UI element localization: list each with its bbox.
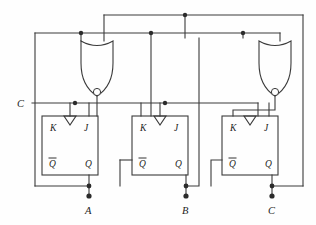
- ff-b-clock-triangle-icon: [154, 116, 166, 125]
- gate-2-inversion-bubble: [271, 88, 278, 95]
- ff-a-pin-j: J: [84, 123, 89, 133]
- ff-b-pin-q: Q: [175, 159, 182, 169]
- wire-ffb-to-ffc-link: [211, 160, 222, 186]
- junction-dot: [183, 13, 187, 17]
- circuit-schematic: K J Q Q K J Q Q K J Q Q C A B C: [0, 0, 316, 225]
- junction-dot: [87, 184, 92, 189]
- circuit-diagram-canvas: K J Q Q K J Q Q K J Q Q C A B C: [0, 0, 316, 225]
- junction-dot: [184, 184, 189, 189]
- ff-b-pin-k: K: [139, 123, 147, 133]
- gate-2-body: [259, 41, 291, 96]
- ff-b-pin-qbar: Q: [139, 159, 146, 169]
- ff-b-pin-j: J: [174, 123, 179, 133]
- junction-dot: [163, 101, 167, 105]
- junction-dot: [79, 31, 83, 35]
- ff-c-pin-k: K: [229, 123, 237, 133]
- junction-dot: [149, 31, 153, 35]
- output-label-a: A: [84, 205, 92, 216]
- junction-dot: [241, 31, 245, 35]
- ff-a-pin-qbar: Q: [49, 159, 56, 169]
- ff-c-clock-triangle-icon: [244, 116, 256, 125]
- output-terminals: [86, 193, 274, 198]
- ff-a-pin-k: K: [49, 123, 57, 133]
- output-label-c: C: [268, 205, 276, 216]
- output-label-b: B: [182, 205, 189, 216]
- output-terminal-c-node[interactable]: [269, 193, 274, 198]
- gate-1-body: [81, 41, 113, 96]
- junction-dot: [73, 101, 77, 105]
- flipflop-c[interactable]: K J Q Q: [222, 116, 278, 175]
- gate-1-inversion-bubble: [93, 88, 100, 95]
- output-terminal-a-node[interactable]: [86, 193, 91, 198]
- wire-network: [32, 15, 303, 196]
- output-terminal-b-node[interactable]: [183, 193, 188, 198]
- flipflop-a[interactable]: K J Q Q: [42, 116, 98, 175]
- ff-a-pin-q: Q: [85, 159, 92, 169]
- ff-c-pin-qbar: Q: [229, 159, 236, 169]
- flipflop-b[interactable]: K J Q Q: [132, 116, 188, 175]
- ff-a-clock-triangle-icon: [64, 116, 76, 125]
- clock-input-label: C: [17, 98, 25, 109]
- junction-dot: [270, 184, 275, 189]
- ff-c-pin-q: Q: [265, 159, 272, 169]
- junction-dots: [73, 13, 275, 189]
- ff-c-pin-j: J: [264, 123, 269, 133]
